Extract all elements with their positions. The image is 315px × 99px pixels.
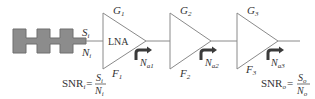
gain-label-1: G1	[113, 4, 124, 18]
svg-text:So: So	[298, 72, 307, 85]
input-noise-label: Ni	[81, 46, 91, 60]
snr-output-formula: SNRo= So No	[261, 72, 310, 98]
snr-input-formula: SNRi= Si Ni	[62, 72, 106, 98]
noise-figure-label-2: F2	[179, 67, 191, 81]
noise-source-label-1: Na1	[139, 57, 154, 70]
svg-text:SNRo=: SNRo=	[261, 77, 293, 91]
bandpass-filter	[13, 29, 86, 53]
noise-figure-label-3: F3	[245, 63, 257, 77]
input-signal-label: Si	[82, 26, 90, 40]
svg-text:Si: Si	[96, 72, 103, 85]
svg-text:SNRi=: SNRi=	[62, 77, 93, 91]
lna-label: LNA	[108, 36, 129, 47]
cascade-diagram: Si Ni LNA G1 F1 Na1 G2 F2 Na2 G3 F3 Na3 …	[0, 0, 315, 99]
noise-source-label-2: Na2	[204, 57, 219, 70]
noise-source-label-3: Na3	[270, 57, 285, 70]
svg-text:Ni: Ni	[94, 85, 104, 98]
gain-label-3: G3	[247, 4, 259, 18]
noise-figure-label-1: F1	[111, 67, 122, 81]
gain-label-2: G2	[180, 4, 192, 18]
svg-text:No: No	[296, 85, 308, 98]
